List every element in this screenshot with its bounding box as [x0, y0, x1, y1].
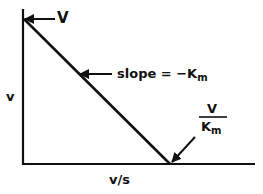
eadie-hofstee-diagram	[0, 0, 263, 194]
km-subscript: m	[211, 125, 221, 136]
slope-subscript: m	[197, 72, 207, 83]
x-intercept-arrow	[172, 137, 195, 162]
slope-text: slope = −K	[117, 66, 197, 81]
slope-label: slope = −Km	[117, 67, 208, 80]
plot-line	[24, 19, 170, 164]
km-text: K	[201, 119, 211, 134]
x-intercept-numerator: V	[207, 102, 217, 115]
x-intercept-denominator: Km	[201, 120, 222, 133]
x-axis-label: v/s	[109, 173, 130, 186]
y-intercept-label: V	[57, 11, 69, 26]
y-axis-label: v	[6, 90, 14, 103]
